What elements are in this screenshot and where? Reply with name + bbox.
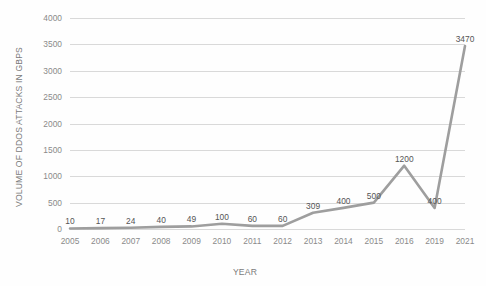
x-tick-label-2010: 2010 [213, 236, 232, 246]
data-label-2013: 309 [306, 201, 320, 211]
data-label-2009: 49 [187, 214, 197, 224]
x-tick-label-2006: 2006 [91, 236, 110, 246]
data-label-2010: 100 [215, 212, 229, 222]
data-label-2006: 17 [96, 216, 106, 226]
data-label-2021: 3470 [456, 34, 475, 44]
x-tick-label-2011: 2011 [243, 236, 261, 246]
x-tick-label-2007: 2007 [121, 236, 140, 246]
x-tick-label-2015: 2015 [365, 236, 384, 246]
x-tick-label-2014: 2014 [334, 236, 353, 246]
y-tick-label-500: 500 [48, 198, 62, 208]
data-label-2007: 24 [126, 216, 136, 226]
x-tick-label-2008: 2008 [152, 236, 171, 246]
y-tick-label-3000: 3000 [43, 66, 62, 76]
y-tick-label-1000: 1000 [43, 171, 62, 181]
x-axis-title: YEAR [233, 267, 257, 277]
y-tick-label-3500: 3500 [43, 39, 62, 49]
x-tick-label-2009: 2009 [182, 236, 201, 246]
data-label-2016: 1200 [395, 154, 414, 164]
chart-canvas: 05001000150020002500300035004000 2005200… [0, 0, 486, 286]
y-axis-title: VOLUME OF DDOS ATTACKS IN GBPS [14, 47, 24, 207]
ddos-attack-volume-line-chart: 05001000150020002500300035004000 2005200… [0, 0, 486, 286]
x-tick-label-2021: 2021 [456, 236, 475, 246]
x-tick-label-2013: 2013 [304, 236, 323, 246]
x-tick-label-2019: 2019 [425, 236, 444, 246]
x-tick-label-2012: 2012 [273, 236, 292, 246]
x-tick-label-2005: 2005 [61, 236, 80, 246]
data-label-2012: 60 [278, 214, 288, 224]
y-tick-label-0: 0 [57, 224, 62, 234]
data-label-2019: 400 [428, 196, 442, 206]
data-label-2014: 400 [336, 196, 350, 206]
data-label-2008: 40 [156, 215, 166, 225]
data-label-2005: 10 [65, 216, 75, 226]
y-tick-label-4000: 4000 [43, 13, 62, 23]
x-tick-label-2016: 2016 [395, 236, 414, 246]
y-tick-label-1500: 1500 [43, 145, 62, 155]
data-label-2011: 60 [248, 214, 258, 224]
y-tick-label-2000: 2000 [43, 119, 62, 129]
data-label-2015: 500 [367, 191, 381, 201]
y-tick-label-2500: 2500 [43, 92, 62, 102]
